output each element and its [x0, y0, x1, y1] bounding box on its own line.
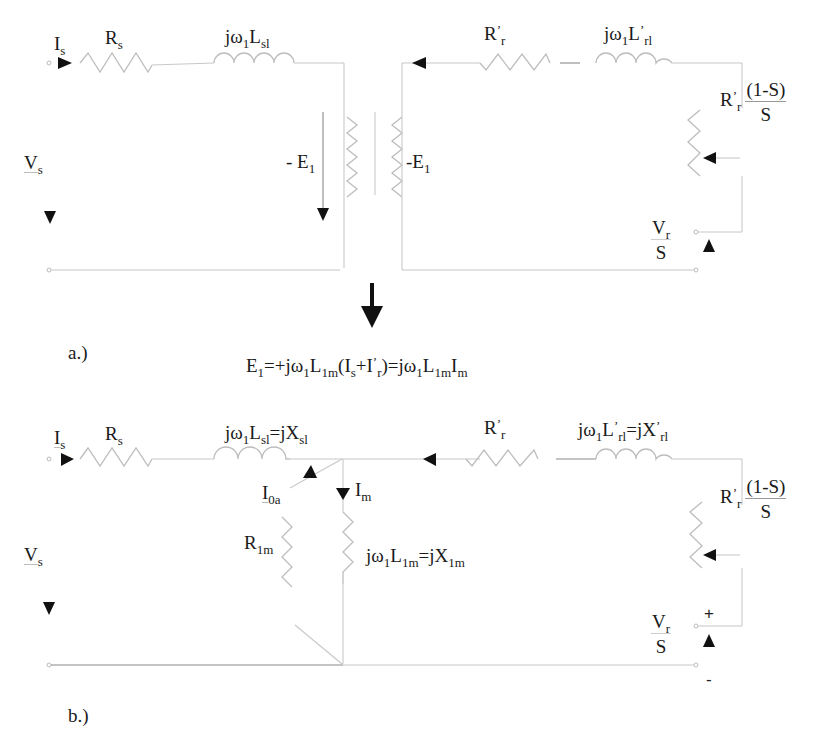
label-main: L: [249, 26, 261, 47]
rotor-voltage-fraction: VrS: [651, 612, 671, 656]
label-sub: s: [60, 437, 65, 452]
fraction-numerator: Vr: [651, 218, 671, 240]
transition-arrow: [361, 283, 383, 328]
eq-sub: 1m: [434, 365, 451, 380]
label-rotor-voltage-b: VrS: [651, 612, 671, 656]
label-sub3: sl: [299, 432, 308, 447]
arrow-e1-a: [317, 208, 329, 221]
eq-part: L: [310, 355, 322, 376]
label-magnetizing-reactance-b: jω1L1m=jX1m: [366, 546, 465, 565]
label-rotor-leakage-b: jω1L’rl=jX’rl: [578, 420, 668, 439]
label-sub2: sl: [261, 432, 270, 447]
label-rotor-resistance-b: R’r: [484, 418, 505, 437]
eq-part: (I: [338, 355, 351, 376]
label-sub: m: [361, 489, 371, 504]
label-main: - E: [286, 151, 309, 172]
label-sub: r: [501, 33, 505, 48]
label-sub: s: [118, 37, 123, 52]
arrow-ir-b: [423, 453, 436, 466]
label-sub2: rl: [618, 429, 626, 444]
arrow-vr-a: [703, 239, 715, 252]
eq-part: =+jω: [264, 355, 303, 376]
eq-part: L: [423, 355, 435, 376]
label-main: L: [628, 23, 640, 44]
label-main: V: [24, 544, 38, 565]
resistor-rr-b: [466, 450, 538, 466]
label-sub: r: [737, 496, 741, 511]
eq-sub: m: [457, 365, 467, 380]
fraction-numerator: Vr: [651, 612, 671, 634]
polarity-minus: -: [706, 670, 712, 690]
label-stator-voltage-a: Vs: [24, 153, 43, 172]
eq-part: +I: [356, 355, 373, 376]
resistor-r1m-b: [282, 517, 292, 587]
label-stator-leakage-b: jω1Lsl=jXsl: [225, 423, 308, 442]
label-stator-resistance-a: Rs: [105, 28, 123, 47]
inductor-lrl-a: [596, 53, 672, 63]
polarity-plus: +: [704, 604, 714, 624]
arrow-vs-a: [44, 211, 56, 224]
eq-part: E: [246, 355, 258, 376]
label-main: R: [484, 23, 497, 44]
caption-b: b.): [68, 705, 89, 727]
label-rotor-voltage-a: VrS: [651, 218, 671, 262]
label-stator-current-a: Is: [54, 34, 65, 53]
label-stator-resistance-b: Rs: [105, 424, 123, 443]
label-core-loss-resistance-b: R1m: [244, 533, 273, 552]
label-sub2: rl: [644, 33, 652, 48]
label-emf-right-a: -E1: [406, 152, 430, 171]
inductor-lsl-b: [214, 447, 290, 459]
label-main: R: [484, 417, 497, 438]
label-pre: jω: [225, 26, 243, 47]
label-sub: 1m: [257, 542, 274, 557]
label-pre: jω: [578, 419, 596, 440]
label-main: R: [720, 486, 733, 507]
resistor-rr-a: [480, 54, 550, 70]
label-main: R: [720, 89, 733, 110]
label-load-resistance-a: R’r(1-S)S: [720, 80, 786, 124]
arrow-load-a: [703, 152, 716, 164]
inductor-l1m-b: [343, 512, 353, 584]
inductor-lrl-b: [596, 449, 672, 459]
label-sub: 1: [309, 161, 316, 176]
resistor-rs-b: [80, 448, 152, 466]
label-magnetizing-current-b: Im: [355, 480, 371, 499]
label-sub3: rl: [660, 429, 668, 444]
label-main: R: [105, 423, 118, 444]
label-main: V: [652, 217, 666, 238]
label-main: R: [244, 532, 257, 553]
label-sub: r: [666, 227, 670, 242]
eq-part: )=jω: [382, 355, 417, 376]
label-sub: r: [501, 427, 505, 442]
label-eq: =jX: [270, 422, 300, 443]
arrow-is-a: [58, 57, 72, 69]
label-rotor-resistance-a: R’r: [484, 24, 505, 43]
label-main: L: [602, 419, 614, 440]
eq-sub: 1m: [321, 365, 338, 380]
label-sub: s: [38, 162, 43, 177]
label-emf-left-a: - E1: [286, 152, 315, 171]
transformer-secondary-coil: [392, 117, 402, 197]
wire-r1m-return: [295, 625, 342, 664]
label-main: R: [105, 27, 118, 48]
load-fraction: (1-S)S: [745, 477, 786, 521]
resistor-load-a: [688, 110, 700, 176]
rotor-voltage-fraction: VrS: [651, 218, 671, 262]
fraction-numerator: (1-S): [745, 477, 786, 499]
label-main: V: [24, 152, 38, 173]
label-main: V: [652, 611, 666, 632]
transformer-primary-coil: [347, 117, 357, 197]
label-stator-voltage-b: Vs: [24, 545, 43, 564]
inductor-lsl-a: [214, 53, 294, 63]
label-stator-leakage-a: jω1Lsl: [225, 27, 270, 46]
wire-i0a-branch: [290, 459, 342, 488]
label-main: -E: [406, 151, 424, 172]
label-sub: r: [737, 99, 741, 114]
label-pre: jω: [366, 545, 384, 566]
label-rotor-leakage-a: jω1L’rl: [604, 24, 652, 43]
fraction-denominator: S: [656, 240, 667, 262]
fraction-denominator: S: [656, 634, 667, 656]
label-main: L: [249, 422, 261, 443]
fraction-numerator: (1-S): [745, 80, 786, 102]
label-eq: =jX: [419, 545, 449, 566]
